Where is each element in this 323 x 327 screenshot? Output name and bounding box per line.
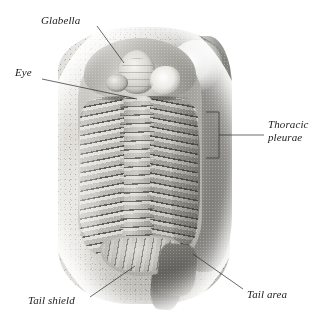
label-thoracic-pleurae: Thoracic pleurae — [268, 118, 323, 143]
annotation-lines — [0, 0, 323, 327]
label-tail-shield: Tail shield — [28, 294, 75, 307]
leader-line-eye — [42, 79, 137, 99]
label-thoracic-pleurae-line1: Thoracic — [268, 118, 309, 130]
bracket-thoracic-pleurae — [206, 112, 219, 158]
label-thoracic-pleurae-line2: pleurae — [268, 131, 302, 143]
label-tail-area: Tail area — [247, 288, 287, 301]
leader-line-glabella — [97, 26, 124, 63]
trilobite-figure: Glabella Eye Thoracic pleurae Tail shiel… — [0, 0, 323, 327]
leader-line-tail-shield — [90, 266, 135, 297]
leader-line-tail-area — [193, 254, 243, 289]
label-glabella: Glabella — [41, 14, 80, 27]
label-eye: Eye — [15, 66, 32, 79]
